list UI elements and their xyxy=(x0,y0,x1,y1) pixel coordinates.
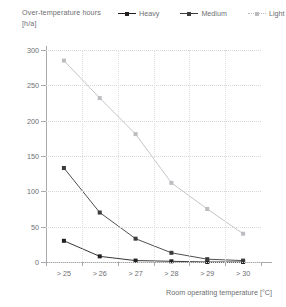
x-axis-tick xyxy=(46,262,47,266)
gridline-vertical xyxy=(189,50,190,262)
legend-swatch-light xyxy=(248,10,266,17)
plot-area: 050100150200250300> 25> 26> 27> 28> 29> … xyxy=(46,50,261,262)
y-axis-tick xyxy=(41,121,46,122)
x-axis-tick xyxy=(118,262,119,266)
legend-item-medium[interactable]: Medium xyxy=(180,9,227,18)
x-axis-tick xyxy=(189,262,190,266)
y-axis-tick xyxy=(41,85,46,86)
y-axis-tick-label: 200 xyxy=(27,116,39,125)
y-axis-tick xyxy=(41,227,46,228)
y-axis-tick xyxy=(41,156,46,157)
x-axis-tick xyxy=(261,262,262,266)
y-axis-tick-label: 250 xyxy=(27,81,39,90)
y-axis-tick-label: 50 xyxy=(31,222,39,231)
legend-swatch-medium xyxy=(180,10,198,17)
x-axis-tick xyxy=(154,262,155,266)
y-axis-tick xyxy=(41,50,46,51)
chart-title: Over-temperature hours [h/a] xyxy=(22,8,101,29)
data-point-medium-2[interactable] xyxy=(134,237,138,241)
x-axis-tick-label: > 30 xyxy=(236,269,250,278)
data-point-medium-0[interactable] xyxy=(62,166,66,170)
data-point-medium-3[interactable] xyxy=(169,251,173,255)
y-axis-tick-label: 150 xyxy=(27,152,39,161)
legend-item-light[interactable]: Light xyxy=(248,9,285,18)
legend-label-medium: Medium xyxy=(201,9,227,18)
legend-swatch-heavy xyxy=(118,10,136,17)
data-point-light-2[interactable] xyxy=(134,132,138,136)
data-point-medium-1[interactable] xyxy=(98,211,102,215)
y-axis-tick-label: 0 xyxy=(35,258,39,267)
gridline-vertical xyxy=(82,50,83,262)
data-point-light-5[interactable] xyxy=(241,232,245,236)
chart-container: Over-temperature hours [h/a] Heavy Mediu… xyxy=(0,0,286,307)
x-axis-tick xyxy=(225,262,226,266)
data-point-light-1[interactable] xyxy=(98,96,102,100)
legend-item-heavy[interactable]: Heavy xyxy=(118,9,159,18)
chart-legend: Heavy Medium Light xyxy=(118,9,285,18)
gridline-vertical xyxy=(154,50,155,262)
data-point-medium-4[interactable] xyxy=(205,257,209,261)
y-axis-tick-label: 100 xyxy=(27,187,39,196)
gridline-vertical xyxy=(225,50,226,262)
data-point-light-3[interactable] xyxy=(169,181,173,185)
gridline-vertical xyxy=(118,50,119,262)
x-axis-title: Room operating temperature [°C] xyxy=(166,288,272,297)
legend-label-heavy: Heavy xyxy=(139,9,159,18)
y-axis-tick-label: 300 xyxy=(27,46,39,55)
data-point-light-0[interactable] xyxy=(62,59,66,63)
x-axis-tick xyxy=(82,262,83,266)
data-point-light-4[interactable] xyxy=(205,207,209,211)
x-axis-tick-label: > 25 xyxy=(57,269,71,278)
y-axis-tick xyxy=(41,191,46,192)
x-axis-tick-label: > 29 xyxy=(200,269,214,278)
data-point-heavy-0[interactable] xyxy=(62,239,66,243)
x-axis-tick-label: > 26 xyxy=(93,269,107,278)
data-point-heavy-1[interactable] xyxy=(98,254,102,258)
x-axis-tick-label: > 28 xyxy=(164,269,178,278)
legend-label-light: Light xyxy=(269,9,285,18)
x-axis-tick-label: > 27 xyxy=(128,269,142,278)
